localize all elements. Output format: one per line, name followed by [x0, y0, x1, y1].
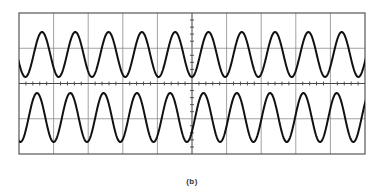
oscilloscope-display — [0, 0, 384, 196]
figure-caption: (b) — [0, 177, 384, 186]
